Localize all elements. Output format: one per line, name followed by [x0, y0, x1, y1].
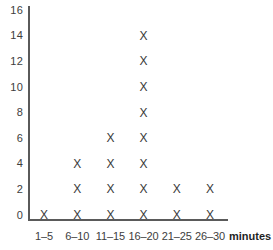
data-point-marker: X [138, 209, 150, 221]
data-point-marker: X [38, 209, 50, 221]
y-axis-tick-label: 2 [0, 184, 23, 195]
x-axis-tick-label: 11–15 [93, 231, 127, 242]
x-axis-tick-label: 26–30 [193, 231, 227, 242]
data-point-marker: X [104, 132, 116, 144]
x-axis-tick-label: 21–25 [160, 231, 194, 242]
data-point-marker: X [171, 209, 183, 221]
data-point-marker: X [138, 81, 150, 93]
x-axis-tick-label: 6–10 [60, 231, 94, 242]
x-axis-title: minutes [229, 231, 271, 242]
data-point-marker: X [104, 158, 116, 170]
y-axis-tick-label: 4 [0, 158, 23, 169]
data-point-marker: X [138, 107, 150, 119]
y-axis-tick-label: 12 [0, 56, 23, 67]
data-point-marker: X [104, 209, 116, 221]
data-point-marker: X [71, 158, 83, 170]
dot-plot-chart: 1614121086420 1–56–1011–1516–2021–2526–3… [0, 0, 273, 250]
x-axis-tick-label: 1–5 [27, 231, 61, 242]
x-axis-line [28, 219, 228, 221]
x-axis-tick-label: 16–20 [127, 231, 161, 242]
data-point-marker: X [138, 132, 150, 144]
data-point-marker: X [204, 209, 216, 221]
data-point-marker: X [138, 55, 150, 67]
y-axis-line [28, 6, 30, 221]
data-point-marker: X [171, 183, 183, 195]
data-point-marker: X [104, 183, 116, 195]
data-point-marker: X [138, 30, 150, 42]
y-axis-tick-label: 6 [0, 133, 23, 144]
data-point-marker: X [138, 158, 150, 170]
y-axis-tick-label: 0 [0, 210, 23, 221]
data-point-marker: X [204, 183, 216, 195]
data-point-marker: X [71, 183, 83, 195]
data-point-marker: X [138, 183, 150, 195]
y-axis-tick-label: 10 [0, 82, 23, 93]
y-axis-tick-label: 16 [0, 5, 23, 16]
y-axis-tick-label: 14 [0, 30, 23, 41]
data-point-marker: X [71, 209, 83, 221]
y-axis-tick-label: 8 [0, 107, 23, 118]
